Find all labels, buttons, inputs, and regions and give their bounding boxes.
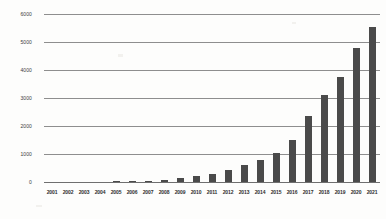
bar-2017 — [305, 116, 312, 182]
bar-2011 — [209, 174, 216, 182]
bar-2015 — [273, 153, 280, 182]
xtick-label: 2010 — [188, 190, 204, 195]
xtick-label: 2011 — [204, 190, 220, 195]
xtick-label: 2016 — [284, 190, 300, 195]
bar-2016 — [289, 140, 296, 182]
xtick-label: 2017 — [300, 190, 316, 195]
bar-slot — [156, 14, 172, 182]
bar-slot — [268, 14, 284, 182]
bar-slot — [124, 14, 140, 182]
ytick-label: 0 — [0, 180, 32, 185]
bar-slot — [204, 14, 220, 182]
xtick-label: 2009 — [172, 190, 188, 195]
bar-2020 — [353, 48, 360, 182]
bar-2019 — [337, 77, 344, 182]
ytick-label: 2000 — [0, 124, 32, 129]
ytick-label: 3000 — [0, 96, 32, 101]
xtick-label: 2005 — [108, 190, 124, 195]
xtick-label: 2003 — [76, 190, 92, 195]
ytick-label: 5000 — [0, 40, 32, 45]
axis-baseline — [44, 182, 380, 183]
bar-2007 — [145, 181, 152, 182]
xtick-label: 2018 — [316, 190, 332, 195]
xtick-label: 2012 — [220, 190, 236, 195]
paper-speck — [36, 205, 42, 207]
bar-slot — [332, 14, 348, 182]
bar-2018 — [321, 95, 328, 182]
bar-series — [44, 14, 380, 182]
bar-slot — [236, 14, 252, 182]
bar-2021 — [369, 27, 376, 182]
bar-2009 — [177, 178, 184, 182]
bar-slot — [140, 14, 156, 182]
x-axis-labels: 2001 2002 2003 2004 2005 2006 2007 2008 … — [44, 190, 380, 195]
bar-slot — [252, 14, 268, 182]
bar-slot — [76, 14, 92, 182]
bar-slot — [172, 14, 188, 182]
bar-2008 — [161, 180, 168, 182]
xtick-label: 2007 — [140, 190, 156, 195]
bar-slot — [44, 14, 60, 182]
xtick-label: 2008 — [156, 190, 172, 195]
ytick-label: 1000 — [0, 152, 32, 157]
bar-slot — [188, 14, 204, 182]
bar-2012 — [225, 170, 232, 182]
bar-slot — [316, 14, 332, 182]
plot-area: 6000 5000 4000 3000 2000 1000 0 — [44, 14, 380, 182]
xtick-label: 2021 — [364, 190, 380, 195]
xtick-label: 2019 — [332, 190, 348, 195]
bar-2013 — [241, 165, 248, 182]
bar-2014 — [257, 160, 264, 182]
ytick-label: 4000 — [0, 68, 32, 73]
bar-slot — [284, 14, 300, 182]
bar-2006 — [129, 181, 136, 182]
bar-slot — [108, 14, 124, 182]
bar-slot — [348, 14, 364, 182]
xtick-label: 2015 — [268, 190, 284, 195]
xtick-label: 2001 — [44, 190, 60, 195]
xtick-label: 2006 — [124, 190, 140, 195]
bar-2010 — [193, 176, 200, 182]
xtick-label: 2014 — [252, 190, 268, 195]
bar-chart: 6000 5000 4000 3000 2000 1000 0 — [0, 0, 386, 219]
ytick-label: 6000 — [0, 12, 32, 17]
bar-slot — [220, 14, 236, 182]
xtick-label: 2020 — [348, 190, 364, 195]
bar-slot — [364, 14, 380, 182]
xtick-label: 2004 — [92, 190, 108, 195]
xtick-label: 2013 — [236, 190, 252, 195]
bar-slot — [300, 14, 316, 182]
bar-slot — [60, 14, 76, 182]
bar-2005 — [113, 181, 120, 182]
xtick-label: 2002 — [60, 190, 76, 195]
bar-slot — [92, 14, 108, 182]
